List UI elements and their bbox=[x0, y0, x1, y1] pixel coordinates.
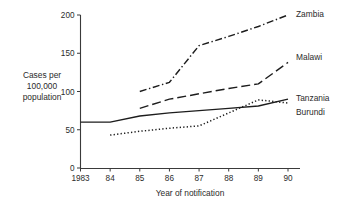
y-axis-title-line-3: population bbox=[23, 92, 62, 102]
x-tick-label: 89 bbox=[254, 174, 264, 183]
x-tick-group: 198384858687888990 bbox=[71, 168, 293, 183]
x-tick-label: 85 bbox=[135, 174, 145, 183]
y-axis-group: 050100150200 bbox=[61, 11, 81, 173]
y-tick-label: 100 bbox=[61, 88, 75, 97]
chart-container: 050100150200 198384858687888990 ZambiaMa… bbox=[0, 0, 343, 209]
y-tick-label: 50 bbox=[65, 126, 75, 135]
x-tick-label: 86 bbox=[165, 174, 175, 183]
y-axis-title-line-1: Cases per bbox=[23, 70, 61, 80]
x-axis-group: 198384858687888990 bbox=[71, 168, 300, 183]
series-line-zambia bbox=[140, 15, 288, 92]
series-label-zambia: Zambia bbox=[296, 9, 324, 19]
y-tick-label: 150 bbox=[61, 49, 75, 58]
y-tick-label: 0 bbox=[70, 164, 75, 173]
x-tick-label: 1983 bbox=[71, 174, 90, 183]
x-axis-title: Year of notification bbox=[156, 188, 225, 198]
y-axis-title-line-2: 100,000 bbox=[27, 81, 58, 91]
y-axis-title: Cases per 100,000 population bbox=[23, 70, 62, 102]
line-chart: 050100150200 198384858687888990 ZambiaMa… bbox=[0, 0, 343, 209]
y-tick-group: 050100150200 bbox=[61, 11, 81, 173]
series-label-malawi: Malawi bbox=[296, 52, 322, 62]
series-line-malawi bbox=[140, 62, 288, 108]
x-tick-label: 87 bbox=[195, 174, 205, 183]
series-label-tanzania: Tanzania bbox=[296, 93, 330, 103]
x-tick-label: 90 bbox=[283, 174, 293, 183]
x-tick-label: 84 bbox=[106, 174, 116, 183]
y-tick-label: 200 bbox=[61, 11, 75, 20]
series-group bbox=[81, 15, 289, 135]
x-tick-label: 88 bbox=[224, 174, 234, 183]
series-label-group: ZambiaMalawiTanzaniaBurundi bbox=[296, 9, 330, 117]
series-line-tanzania bbox=[81, 99, 289, 122]
series-label-burundi: Burundi bbox=[296, 107, 325, 117]
